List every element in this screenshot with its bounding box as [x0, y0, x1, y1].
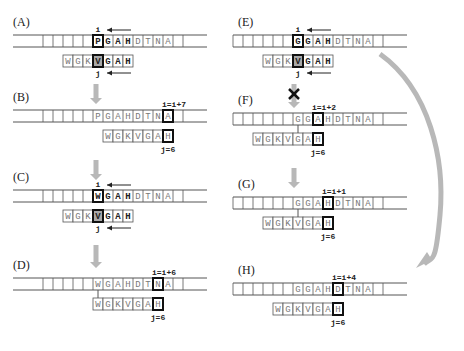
text-char: N — [355, 37, 360, 47]
pattern-char: G — [305, 219, 310, 229]
text-char: H — [325, 37, 330, 47]
pattern-char: G — [75, 57, 80, 67]
panel-E: (E)GGAHDTNAWGKVGAHij — [233, 15, 407, 78]
text-char: D — [135, 192, 140, 202]
blocked-arrow-icon — [288, 84, 300, 108]
pattern-char: G — [295, 135, 300, 145]
text-char: N — [155, 280, 160, 290]
pattern-char: K — [85, 57, 91, 67]
pattern-char: W — [265, 57, 271, 67]
pattern-char: A — [315, 219, 321, 229]
pattern-char: V — [125, 300, 131, 310]
text-char: D — [335, 37, 340, 47]
text-char: H — [125, 192, 130, 202]
text-char: A — [365, 285, 371, 295]
pattern-char: K — [285, 57, 291, 67]
text-char: A — [115, 280, 121, 290]
text-char: G — [295, 37, 300, 47]
pattern-char: V — [285, 135, 291, 145]
text-char: A — [115, 112, 121, 122]
text-char: A — [365, 37, 371, 47]
j-offset-label: j=6 — [331, 318, 346, 327]
text-char: T — [145, 280, 151, 290]
panel-D: (D)WGAHDTNAWGKVGAHi=i+6j=6 — [13, 258, 207, 322]
text-char: H — [325, 199, 330, 209]
pattern-char: G — [105, 57, 110, 67]
left-arrow-head-icon — [307, 71, 312, 76]
text-char: G — [305, 115, 310, 125]
pattern-char: H — [335, 305, 340, 315]
pattern-char: G — [105, 212, 110, 222]
panel-label: (C) — [13, 170, 29, 184]
text-char: D — [135, 280, 140, 290]
panel-A: (A)PGAHDTNAWGKVGAHij — [13, 15, 207, 78]
text-char: P — [95, 37, 101, 47]
text-char: T — [345, 199, 351, 209]
panel-H: (H)GGAHDTNAWGKVGAHi=i+4j=6 — [233, 263, 407, 327]
text-char: W — [95, 280, 101, 290]
text-char: N — [155, 112, 160, 122]
text-char: A — [315, 37, 321, 47]
text-char: N — [355, 285, 360, 295]
pattern-char: K — [115, 300, 121, 310]
down-arrow-icon — [288, 168, 300, 188]
text-char: D — [135, 37, 140, 47]
j-offset-label: j=6 — [311, 148, 326, 157]
pattern-char: K — [125, 132, 131, 142]
pattern-char: W — [275, 305, 281, 315]
pattern-char: H — [325, 57, 330, 67]
j-label: j — [296, 69, 301, 78]
curved-arrow — [380, 54, 441, 264]
left-arrow-head-icon — [107, 183, 112, 188]
text-char: T — [345, 115, 351, 125]
pattern-char: H — [125, 57, 130, 67]
text-char: T — [345, 37, 351, 47]
curved-arrow-head-icon — [416, 252, 432, 268]
down-arrow-icon — [90, 84, 102, 104]
pattern-char: K — [85, 212, 91, 222]
pattern-char: A — [315, 57, 321, 67]
panel-B: (B)PGAHDTNAWGKVGAHi=i+7j=6 — [13, 90, 207, 154]
text-char: G — [105, 280, 110, 290]
text-char: H — [325, 115, 330, 125]
j-offset-label: j=6 — [321, 232, 336, 241]
pattern-char: H — [125, 212, 130, 222]
pattern-char: H — [165, 132, 170, 142]
j-offset-label: j=6 — [151, 313, 166, 322]
text-char: H — [325, 285, 330, 295]
panel-label: (H) — [238, 263, 255, 277]
text-char: D — [335, 115, 340, 125]
pattern-char: H — [155, 300, 160, 310]
text-char: T — [345, 285, 351, 295]
text-char: D — [335, 199, 340, 209]
panel-label: (D) — [13, 258, 30, 272]
i-offset-label: i=i+7 — [162, 100, 186, 109]
boyer-moore-diagram: (A)PGAHDTNAWGKVGAHij(B)PGAHDTNAWGKVGAHi=… — [0, 0, 464, 351]
text-char: H — [125, 37, 130, 47]
pattern-char: V — [95, 212, 101, 222]
text-char: G — [295, 285, 300, 295]
pattern-char: G — [315, 305, 320, 315]
text-char: T — [145, 192, 151, 202]
text-char: G — [305, 199, 310, 209]
pattern-char: W — [65, 57, 71, 67]
text-char: G — [105, 37, 110, 47]
i-offset-label: i=i+6 — [152, 268, 176, 277]
pattern-char: K — [285, 219, 291, 229]
panel-label: (E) — [238, 15, 253, 29]
text-char: G — [105, 192, 110, 202]
i-label: i — [296, 25, 301, 34]
left-arrow-head-icon — [307, 28, 312, 33]
pattern-char: W — [95, 300, 101, 310]
text-char: T — [145, 37, 151, 47]
text-char: A — [115, 37, 121, 47]
pattern-char: G — [285, 305, 290, 315]
left-arrow-head-icon — [107, 71, 112, 76]
text-char: G — [295, 115, 300, 125]
text-char: T — [145, 112, 151, 122]
left-arrow-head-icon — [107, 226, 112, 231]
i-label: i — [96, 25, 101, 34]
pattern-char: G — [275, 57, 280, 67]
i-offset-label: i=i+1 — [322, 187, 346, 196]
pattern-char: G — [145, 132, 150, 142]
